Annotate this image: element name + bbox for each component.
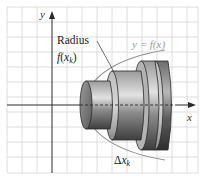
y-axis xyxy=(49,11,55,173)
radius-expression: f(xk) xyxy=(57,51,77,65)
radius-label: Radius xyxy=(57,34,89,46)
x-axis-label: x xyxy=(186,111,192,123)
x-axis xyxy=(176,102,196,108)
delta-x-label: Δxk xyxy=(114,154,131,168)
y-axis-label: y xyxy=(39,8,45,20)
curve-label: y = f(x) xyxy=(131,38,165,51)
disk-method-figure: y x Radius f(xk) y = f(x) Δx xyxy=(0,0,206,180)
